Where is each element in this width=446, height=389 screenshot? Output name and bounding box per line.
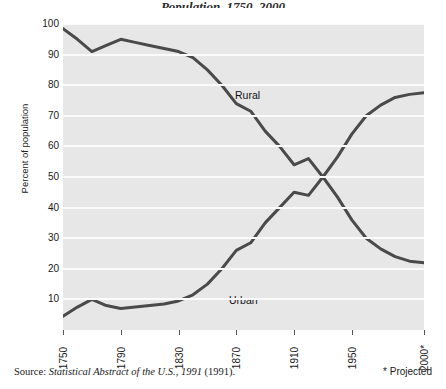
- projected-footnote: * Projected: [383, 366, 432, 377]
- gridline: [63, 24, 424, 25]
- series-label-rural: Rural: [235, 89, 260, 101]
- chart-title-fragment: Population, 1750–2000: [0, 0, 446, 8]
- source-note-prefix: Source:: [14, 366, 46, 377]
- gridline: [63, 84, 424, 86]
- y-tick-label: 40: [33, 203, 59, 213]
- source-note: Source: Statistical Abstract of the U.S.…: [14, 366, 235, 377]
- gridline: [63, 54, 424, 56]
- y-tick-label: 90: [33, 50, 59, 60]
- gridline: [63, 115, 424, 117]
- gridline: [63, 298, 424, 300]
- y-tick-label: 50: [33, 172, 59, 182]
- gridline: [63, 268, 424, 270]
- y-tick-label: 100: [33, 19, 59, 29]
- gridline: [63, 145, 424, 147]
- y-tick-label: 20: [33, 264, 59, 274]
- y-tick-label: 80: [33, 80, 59, 90]
- plot-area: Rural Urban: [63, 24, 424, 330]
- gridline: [63, 176, 424, 178]
- y-tick-label: 30: [33, 233, 59, 243]
- source-note-suffix: (1991).: [205, 366, 236, 377]
- series-line-urban: [63, 93, 424, 316]
- gridline: [63, 237, 424, 239]
- y-axis-tick-labels: 102030405060708090100: [28, 0, 59, 389]
- y-tick-label: 60: [33, 141, 59, 151]
- figure-footer: Source: Statistical Abstract of the U.S.…: [0, 366, 446, 386]
- y-tick-label: 70: [33, 111, 59, 121]
- source-note-title: Statistical Abstract of the U.S., 1991: [49, 366, 202, 377]
- gridline: [63, 207, 424, 209]
- y-tick-label: 10: [33, 294, 59, 304]
